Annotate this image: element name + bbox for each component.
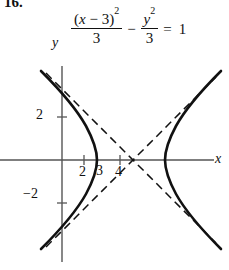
x-axis-label: x xyxy=(215,152,221,166)
asymptote-negative-slope xyxy=(46,73,216,243)
minus-sign: − xyxy=(89,11,97,27)
plot-area xyxy=(0,38,229,270)
exponent-2: 2 xyxy=(114,5,119,16)
equation-operator: − xyxy=(127,22,135,37)
problem-number: 16. xyxy=(4,0,23,10)
x-tick-label-3: 3 xyxy=(96,164,103,178)
term-2-numerator: y2 xyxy=(141,12,159,28)
exponent-2: 2 xyxy=(150,5,155,16)
variable-x: x xyxy=(79,11,86,27)
x-tick-label-4: 4 xyxy=(115,165,122,179)
term-1-numerator: (x − 3)2 xyxy=(71,12,122,28)
equals-sign: = xyxy=(163,22,171,37)
x-tick-label-2: 2 xyxy=(79,165,86,179)
axes xyxy=(0,66,214,262)
y-tick-label-2: 2 xyxy=(36,108,43,122)
hyperbola-figure: 16. (x − 3)2 3 − y2 3 = 1 xyxy=(0,0,229,270)
y-tick-label-minus-2: −2 xyxy=(23,187,38,201)
asymptote-positive-slope xyxy=(46,77,216,247)
equation-right-side: 1 xyxy=(179,22,187,37)
y-axis-label: y xyxy=(52,36,58,50)
